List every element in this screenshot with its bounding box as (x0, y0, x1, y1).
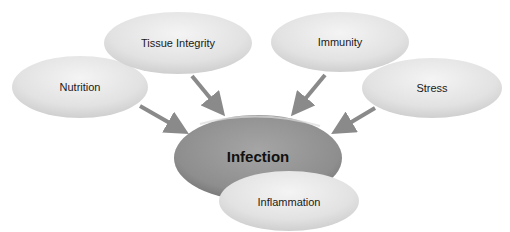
label-stress: Stress (416, 82, 447, 94)
diagram-canvas (0, 0, 510, 232)
label-infection: Infection (227, 148, 290, 165)
arrow-stress (338, 108, 375, 130)
label-nutrition: Nutrition (60, 81, 101, 93)
label-tissue-integrity: Tissue Integrity (141, 37, 215, 49)
arrow-tissue-integrity (192, 76, 220, 110)
label-immunity: Immunity (318, 36, 363, 48)
label-inflammation: Inflammation (258, 196, 321, 208)
arrow-immunity (296, 75, 325, 110)
arrow-nutrition (140, 106, 182, 130)
